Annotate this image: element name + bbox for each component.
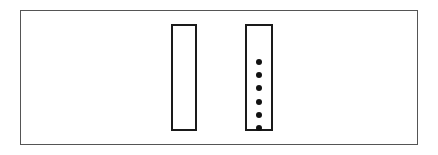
left-rectangle: [171, 24, 197, 131]
dot-item: [256, 99, 262, 105]
dot-item: [256, 112, 262, 118]
dot-item: [256, 59, 262, 65]
outer-frame: [20, 10, 418, 145]
dot-item: [256, 72, 262, 78]
dot-item: [256, 125, 262, 131]
diagram-canvas: [0, 0, 438, 155]
dot-column: [252, 59, 266, 131]
dot-item: [256, 85, 262, 91]
